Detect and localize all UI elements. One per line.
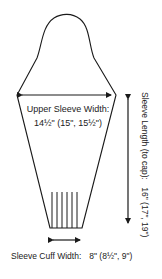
sleeve-cuff-width-label: Sleeve Cuff Width: — [11, 251, 81, 261]
sleeve-cuff-width-text: Sleeve Cuff Width:8" (8½", 9") — [11, 251, 132, 261]
sleeve-cuff-width-value: 8" (8½", 9") — [89, 251, 132, 261]
sleeve-length-text: Sleeve Length (to cap): 16" (17", 19") — [140, 92, 150, 237]
sleeve-schematic — [0, 0, 162, 279]
upper-sleeve-width-value: 14½" (15", 15½") — [22, 118, 114, 128]
sleeve-length-value: 16" (17", 19") — [140, 187, 150, 237]
cuff-ribbing — [52, 192, 77, 228]
upper-sleeve-width-label: Upper Sleeve Width: — [22, 104, 114, 114]
sleeve-length-label: Sleeve Length (to cap): — [140, 92, 150, 180]
